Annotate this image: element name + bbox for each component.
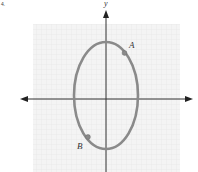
point-a: [122, 51, 127, 56]
ellipse-diagram: y A B: [0, 0, 198, 172]
point-b: [86, 135, 91, 140]
y-axis-up-arrow-icon: [103, 10, 109, 18]
point-b-label: B: [77, 141, 83, 151]
y-axis-label: y: [103, 0, 108, 8]
x-axis-right-arrow-icon: [185, 96, 193, 102]
x-axis-left-arrow-icon: [20, 96, 28, 102]
point-a-label: A: [128, 40, 135, 50]
